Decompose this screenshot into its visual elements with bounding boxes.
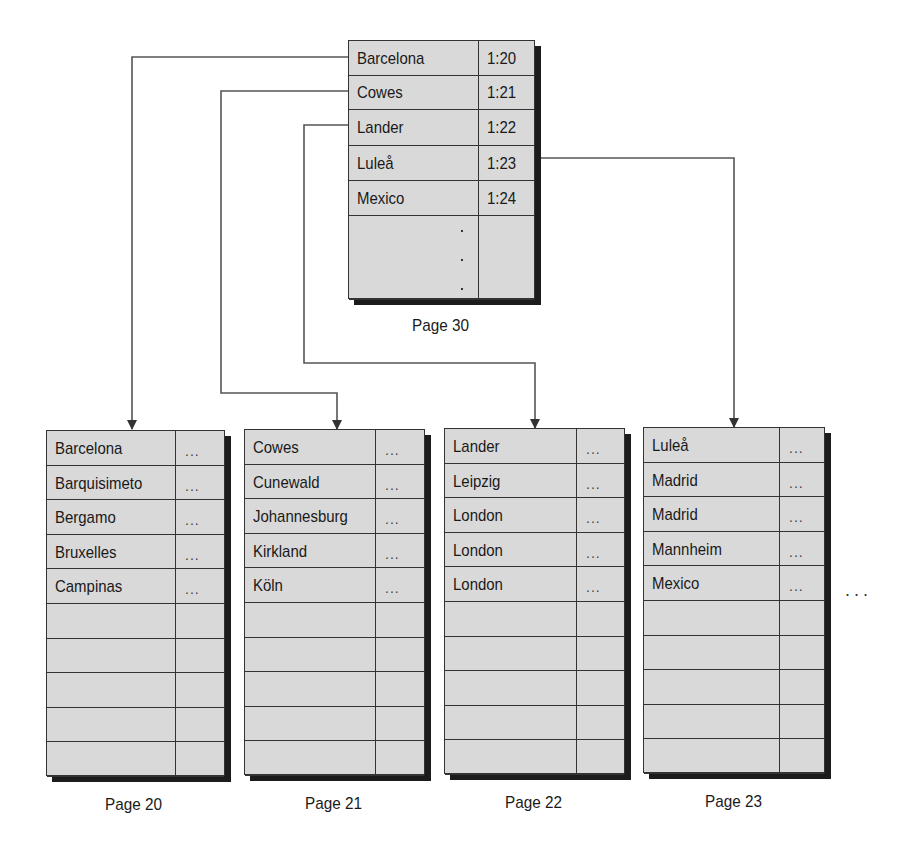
leaf-empty-row <box>245 707 424 742</box>
leaf-key: Madrid <box>652 472 698 489</box>
more-pages-ellipsis: ... <box>845 580 872 601</box>
leaf-empty-row <box>245 741 424 776</box>
leaf-key: Barcelona <box>55 440 122 457</box>
leaf-entry-row: London... <box>445 567 624 602</box>
leaf-value-placeholder: ... <box>385 580 400 596</box>
leaf-value-placeholder: ... <box>789 509 804 525</box>
index-key: Barcelona <box>357 50 424 67</box>
leaf-key: Johannesburg <box>253 508 348 525</box>
leaf-key: Kirkland <box>253 543 307 560</box>
page-label: Page 30 <box>412 316 469 336</box>
leaf-entry-row: London... <box>445 498 624 533</box>
page-pointer: 1:21 <box>487 84 516 101</box>
leaf-key: London <box>453 507 503 524</box>
index-key: Lander <box>357 119 404 136</box>
leaf-empty-row <box>445 602 624 637</box>
leaf-empty-row <box>644 601 824 636</box>
leaf-page-22: Lander...Leipzig...London...London...Lon… <box>444 428 625 774</box>
leaf-entry-row: Madrid... <box>644 497 824 532</box>
leaf-entry-row: Mannheim... <box>644 532 824 567</box>
leaf-entry-row: London... <box>445 533 624 568</box>
leaf-empty-row <box>445 637 624 672</box>
leaf-key: London <box>453 576 503 593</box>
leaf-value-placeholder: ... <box>385 477 400 493</box>
index-row: Barcelona 1:20 <box>349 41 534 76</box>
leaf-key: Leipzig <box>453 473 500 490</box>
leaf-value-placeholder: ... <box>385 442 400 458</box>
index-row: Luleå 1:23 <box>349 146 534 181</box>
leaf-value-placeholder: ... <box>789 544 804 560</box>
leaf-key: Madrid <box>652 506 698 523</box>
leaf-entry-row: Barcelona... <box>47 431 224 466</box>
leaf-value-placeholder: ... <box>789 440 804 456</box>
leaf-entry-row: Mexico... <box>644 566 824 601</box>
leaf-key: Mannheim <box>652 541 722 558</box>
leaf-key: London <box>453 542 503 559</box>
column-divider <box>576 429 577 773</box>
column-divider <box>478 41 479 298</box>
leaf-empty-row <box>47 639 224 674</box>
leaf-entry-row: Bruxelles... <box>47 535 224 570</box>
leaf-key: Bruxelles <box>55 544 117 561</box>
page-label: Page 21 <box>305 794 362 814</box>
index-row: Cowes 1:21 <box>349 76 534 110</box>
leaf-page-20: Barcelona...Barquisimeto...Bergamo...Bru… <box>46 430 225 776</box>
arrowhead-icon <box>127 420 137 430</box>
leaf-empty-row <box>644 739 824 774</box>
column-divider <box>375 430 376 774</box>
leaf-key: Cowes <box>253 439 299 456</box>
leaf-value-placeholder: ... <box>385 511 400 527</box>
index-row: Mexico 1:24 <box>349 181 534 216</box>
page-pointer: 1:23 <box>487 155 516 172</box>
leaf-entry-row: Campinas... <box>47 569 224 604</box>
index-row-empty <box>349 216 534 300</box>
leaf-entry-row: Cowes... <box>245 430 424 465</box>
leaf-value-placeholder: ... <box>789 578 804 594</box>
leaf-value-placeholder: ... <box>185 478 200 494</box>
leaf-value-placeholder: ... <box>586 476 601 492</box>
leaf-entry-row: Lander... <box>445 429 624 464</box>
leaf-empty-row <box>47 742 224 777</box>
leaf-empty-row <box>245 672 424 707</box>
leaf-entry-row: Luleå... <box>644 428 824 463</box>
vertical-ellipsis-icon <box>461 230 464 317</box>
leaf-page-23: Luleå...Madrid...Madrid...Mannheim...Mex… <box>643 427 825 773</box>
column-divider <box>779 428 780 772</box>
leaf-key: Luleå <box>652 437 689 454</box>
leaf-key: Mexico <box>652 575 699 592</box>
leaf-empty-row <box>644 670 824 705</box>
connector-1-21 <box>221 91 349 429</box>
leaf-empty-row <box>445 706 624 741</box>
index-key: Mexico <box>357 190 404 207</box>
leaf-empty-row <box>47 604 224 639</box>
leaf-empty-row <box>47 708 224 743</box>
leaf-empty-row <box>644 705 824 740</box>
page-pointer: 1:24 <box>487 190 516 207</box>
leaf-key: Campinas <box>55 578 122 595</box>
leaf-key: Lander <box>453 438 500 455</box>
leaf-empty-row <box>245 603 424 638</box>
leaf-entry-row: Cunewald... <box>245 465 424 500</box>
column-divider <box>175 431 176 775</box>
connector-1-20 <box>132 57 349 429</box>
leaf-value-placeholder: ... <box>185 581 200 597</box>
leaf-empty-row <box>445 671 624 706</box>
page-pointer: 1:20 <box>487 50 516 67</box>
page-label: Page 22 <box>505 793 562 813</box>
leaf-key: Bergamo <box>55 509 116 526</box>
index-row: Lander 1:22 <box>349 110 534 146</box>
leaf-value-placeholder: ... <box>185 443 200 459</box>
leaf-value-placeholder: ... <box>185 547 200 563</box>
leaf-entry-row: Köln... <box>245 568 424 603</box>
page-pointer: 1:22 <box>487 119 516 136</box>
leaf-value-placeholder: ... <box>385 546 400 562</box>
leaf-value-placeholder: ... <box>586 579 601 595</box>
leaf-value-placeholder: ... <box>586 441 601 457</box>
leaf-value-placeholder: ... <box>185 512 200 528</box>
index-key: Cowes <box>357 84 403 101</box>
leaf-value-placeholder: ... <box>586 510 601 526</box>
page-label: Page 23 <box>705 792 762 812</box>
page-label: Page 20 <box>105 795 162 815</box>
connector-1-23 <box>540 158 734 427</box>
leaf-value-placeholder: ... <box>586 545 601 561</box>
